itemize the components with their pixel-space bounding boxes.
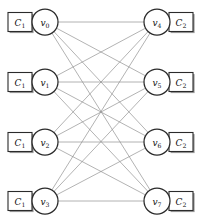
edge-layer [52, 22, 150, 201]
graph-node-v3[interactable]: v3 [32, 188, 58, 214]
cluster-box: C2 [169, 73, 195, 94]
cluster-box: C1 [8, 73, 34, 94]
cluster-box: C2 [169, 13, 195, 34]
graph-node-v6[interactable]: v6 [144, 129, 170, 155]
cluster-box: C1 [8, 133, 34, 154]
graph-node-v4[interactable]: v4 [144, 9, 170, 35]
graph-node-v7[interactable]: v7 [144, 188, 170, 214]
cluster-box: C2 [169, 133, 195, 154]
cluster-box: C1 [8, 192, 34, 213]
bipartite-graph-figure: C1C1C1C1C2C2C2C2 v0v1v2v3v4v5v6v7 [0, 0, 197, 219]
graph-node-v5[interactable]: v5 [144, 69, 170, 95]
graph-node-v1[interactable]: v1 [32, 69, 58, 95]
graph-node-v0[interactable]: v0 [32, 9, 58, 35]
figure-caption [0, 214, 197, 219]
graph-canvas: C1C1C1C1C2C2C2C2 v0v1v2v3v4v5v6v7 [0, 0, 197, 219]
cluster-box: C1 [8, 13, 34, 34]
cluster-box: C2 [169, 192, 195, 213]
graph-node-v2[interactable]: v2 [32, 129, 58, 155]
